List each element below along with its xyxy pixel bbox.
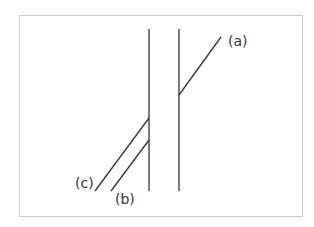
segment-c — [95, 118, 149, 191]
segment-b — [111, 140, 149, 191]
label-c: (c) — [75, 175, 94, 191]
segment-a — [179, 37, 221, 95]
label-b: (b) — [115, 191, 135, 207]
poggendorff-diagram: (a) (c) (b) — [0, 0, 314, 227]
label-a: (a) — [228, 33, 248, 49]
